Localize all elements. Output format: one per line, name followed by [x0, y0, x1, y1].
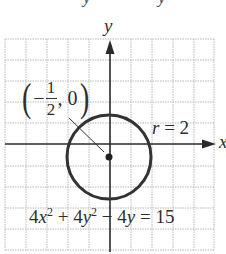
y-axis-arrow-icon [106, 40, 115, 54]
circle-equation: 4x2 + 4y2 − 4y = 15 [29, 205, 174, 228]
center-point [106, 154, 113, 161]
x-axis-label: x [219, 131, 226, 153]
fraction: 1 2 [46, 79, 57, 118]
center-label: ( − 1 2 , 0 ) [20, 78, 91, 118]
circle-graph-figure: y y y x ( − 1 [0, 0, 226, 254]
y-axis-label: y [104, 15, 112, 37]
radius-label: r = 2 [152, 117, 189, 139]
